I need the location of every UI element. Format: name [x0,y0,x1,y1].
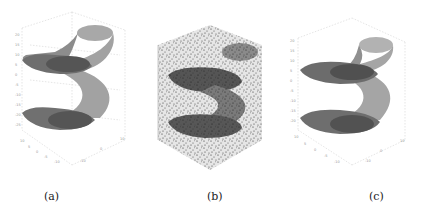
svg-text:-10: -10 [54,160,60,164]
svg-text:10: 10 [294,135,298,139]
svg-text:15: 15 [290,49,294,53]
helix-plot-a: 2015105 0-5-10-15 -20-25 1050-5-10 -1001… [0,0,140,175]
svg-text:0: 0 [380,149,382,153]
svg-text:0: 0 [15,73,17,77]
svg-text:20: 20 [290,39,294,43]
svg-text:10: 10 [290,59,294,63]
svg-text:0: 0 [290,79,292,83]
svg-text:10: 10 [120,137,124,141]
helix-plot-c: 2015105 0-5-10-15-20 1050-5-10 -10010 [280,0,421,175]
svg-text:-5: -5 [15,83,19,87]
svg-text:10: 10 [15,53,19,57]
svg-text:0: 0 [314,148,316,152]
svg-text:10: 10 [400,139,404,143]
svg-text:-5: -5 [290,89,294,93]
svg-text:-10: -10 [290,99,296,103]
caption-b: (b) [207,190,223,203]
svg-text:-10: -10 [365,159,371,163]
svg-text:-20: -20 [290,119,296,123]
svg-text:5: 5 [304,142,306,146]
svg-text:-25: -25 [15,123,21,127]
svg-text:-5: -5 [324,154,328,158]
svg-text:-15: -15 [290,109,296,113]
svg-text:-10: -10 [15,93,21,97]
noisy-helix-plot-b [140,0,280,175]
svg-text:0: 0 [100,147,102,151]
panel-b [140,0,280,175]
svg-text:0: 0 [36,150,38,154]
svg-text:-10: -10 [334,160,340,164]
svg-text:5: 5 [28,145,30,149]
svg-text:10: 10 [20,139,24,143]
svg-text:-5: -5 [44,155,48,159]
caption-a: (a) [44,190,59,203]
svg-text:5: 5 [15,63,17,67]
caption-c: (c) [369,190,384,203]
panel-c: 2015105 0-5-10-15-20 1050-5-10 -10010 [280,0,420,175]
svg-text:15: 15 [15,43,19,47]
svg-text:20: 20 [15,33,19,37]
svg-text:-15: -15 [15,103,21,107]
svg-text:5: 5 [290,69,292,73]
svg-text:-20: -20 [15,113,21,117]
panel-a: 2015105 0-5-10-15 -20-25 1050-5-10 -1001… [0,0,140,175]
svg-text:-10: -10 [80,159,86,163]
